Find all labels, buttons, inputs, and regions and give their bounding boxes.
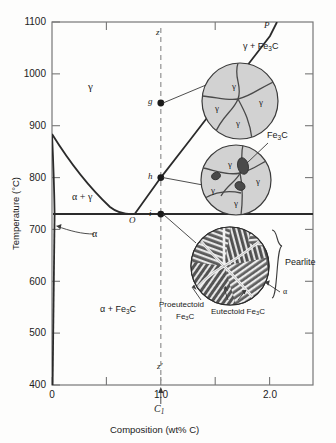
region-label-alpha: α: [92, 229, 97, 239]
x-axis-title: Composition (wt% C): [110, 425, 199, 435]
point-label-z-prime: z′: [157, 362, 162, 371]
inset-a-grain-label: γ: [236, 119, 240, 128]
figure-root: 1100 1000 900 800 700 600 500 400 0 1.0 …: [0, 0, 336, 443]
leader-g: [163, 85, 206, 103]
point-label-i: i: [149, 209, 152, 218]
inset-a-grain-label: γ: [215, 104, 219, 113]
eutectoid-fe3c-label: Eutectoid Fe3C: [211, 308, 265, 317]
phase-boundaries: [52, 22, 313, 385]
region-label-gamma: γ: [88, 81, 93, 92]
inset-pearlite: [190, 227, 272, 306]
inset-b-grain-label: γ: [234, 199, 238, 208]
plot-frame: [52, 22, 313, 385]
inset-austenite-grains: [202, 63, 278, 139]
phase-diagram-svg: [0, 0, 336, 443]
point-label-P: P: [264, 21, 270, 30]
y-tick-label: 500: [12, 328, 46, 338]
y-tick-label: 600: [12, 277, 46, 287]
x-tick-label: 1.0: [141, 390, 181, 400]
pearlite-label: Pearlite: [285, 258, 316, 267]
region-label-alpha-fe3c: α + Fe3C: [100, 305, 136, 315]
point-label-O: O: [129, 216, 136, 225]
y-axis-ticks-right: [305, 74, 313, 333]
leader-i: [163, 214, 196, 243]
inset-a-grain-label: γ: [259, 98, 263, 107]
inset-b-fe3c-label: Fe3C: [267, 131, 288, 141]
point-label-g: g: [148, 97, 153, 106]
alpha-leader: [57, 226, 95, 234]
y-axis-title: Temperature (°C): [11, 177, 21, 250]
point-label-z: z: [156, 28, 160, 37]
proeutectoid-fe3c-label-line2: Fe3C: [176, 313, 194, 322]
x-tick-label: 0: [32, 390, 72, 400]
y-tick-label: 1000: [12, 69, 46, 79]
point-label-h: h: [148, 172, 153, 181]
leader-h: [163, 178, 203, 185]
alpha-solvus: [53, 214, 55, 385]
c1-label: C1: [154, 404, 164, 416]
region-label-alpha-gamma: α + γ: [72, 192, 92, 202]
y-tick-label: 900: [12, 121, 46, 131]
inset-leader-lines: [163, 85, 206, 243]
inset-b-grain-label: γ: [228, 160, 232, 169]
proeutectoid-fe3c-label-line1: Proeutectoid: [159, 301, 204, 309]
alpha-callout-label: α: [283, 288, 287, 296]
inset-a-grain-label: γ: [232, 82, 236, 91]
a3-boundary-curve: [52, 134, 135, 214]
region-label-gamma-fe3c: γ + Fe3C: [243, 42, 278, 52]
x-tick-label: 2.0: [250, 390, 290, 400]
y-tick-label: 1100: [12, 17, 46, 27]
inset-b-grain-label: γ: [211, 186, 215, 195]
inset-b-grain-label: γ: [256, 177, 260, 186]
y-tick-label: 400: [12, 380, 46, 390]
